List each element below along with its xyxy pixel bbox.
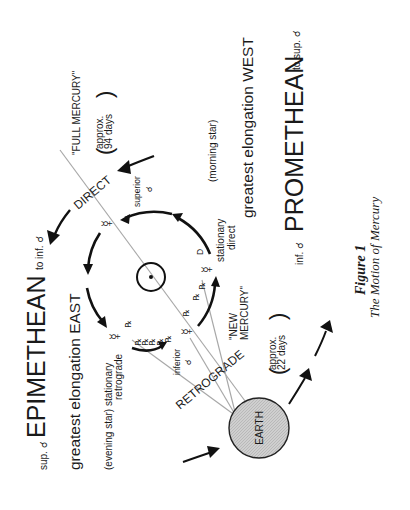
stationary-retrograde-line2: retrograde (113, 353, 124, 400)
inferior-conj-icon: ☌ (183, 359, 193, 365)
orbit-arc-right (178, 218, 210, 254)
stationary-direct-line1: stationary (215, 219, 226, 262)
mercury-motion-diagram: ☿ ☿ ☿ ☿ ℞ ℞ ℞ ℞ ℞ ℞ ℞ ℞ ℞ D EARTH " (0, 0, 410, 510)
mercury-symbol-stationary-retrograde: ☿ (106, 330, 125, 343)
retro-marker-icon: ℞ (181, 309, 191, 317)
to-sup-conj-label: to sup. ☌ (291, 30, 302, 70)
arrowhead-icon (47, 230, 60, 245)
mercury-symbol-stationary-direct: ☿ (198, 263, 217, 276)
sup-conj-label: sup. ☌ (38, 441, 49, 470)
mercury-symbol-superior: ☿ (98, 217, 117, 230)
figure-title: Figure 1 (353, 245, 368, 296)
direct-marker: D (195, 249, 205, 255)
figure-caption: Figure 1 The Motion of Mercury (353, 197, 382, 318)
orbit-arrows (83, 212, 220, 351)
retro-marker-icon: ℞ (197, 282, 207, 290)
greatest-elongation-west-label: greatest elongation WEST (239, 37, 256, 218)
retro-marker-icon: ℞ (163, 335, 173, 343)
new-mercury-line2: MERCURY" (239, 286, 250, 340)
orbit-arc-left-top (88, 233, 100, 268)
paren-close: ) (92, 91, 117, 98)
promethean-label: PROMETHEAN (280, 56, 308, 232)
inf-conj-label: inf. ☌ (294, 242, 305, 265)
to-inf-conj-label: to inf. ☌ (34, 236, 45, 270)
arrowhead-icon (117, 160, 131, 174)
arrowhead-icon (207, 446, 220, 458)
arrowhead-icon (320, 320, 333, 333)
mercury-symbol-inferior: ☿ (178, 325, 197, 338)
approx-94-line2: 94 days (103, 114, 114, 149)
arrowhead-icon (120, 214, 130, 224)
greatest-elongation-east-label: greatest elongation EAST (66, 293, 83, 470)
earth: EARTH (229, 398, 289, 458)
stationary-direct-line2: direct (226, 225, 237, 250)
retrograde-label: RETROGRADE (173, 347, 247, 412)
superior-label: superior (132, 176, 142, 207)
approx-22-line2: 22 days (276, 335, 287, 370)
epimethean-label: EPIMETHEAN (22, 275, 50, 438)
earth-label: EARTH (254, 411, 265, 445)
orbit-arc-left-bottom (87, 288, 103, 322)
retro-marker-icon: ℞ (191, 293, 201, 301)
arrowhead-icon (83, 264, 93, 275)
inferior-label: inferior (172, 349, 182, 375)
full-mercury-label: "FULL MERCURY" (71, 70, 82, 155)
paren-close-22: ) (265, 313, 290, 320)
figure-subtitle: The Motion of Mercury (367, 197, 382, 318)
arrowhead-icon (211, 276, 220, 287)
new-mercury-line1: "NEW (228, 313, 239, 340)
retro-marker-icon: ℞ (123, 320, 133, 328)
superior-conj-icon: ☌ (144, 186, 154, 192)
direct-label: DIRECT (71, 172, 115, 212)
sun-icon (137, 263, 165, 291)
morning-star-label: (morning star) (207, 120, 218, 182)
